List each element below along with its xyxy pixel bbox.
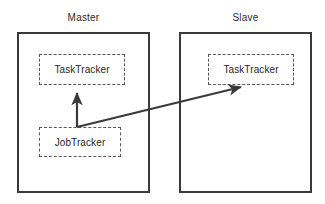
group-title-slave: Slave (179, 12, 312, 23)
daemon-box-slave-tasktracker[interactable]: TaskTracker (208, 54, 294, 85)
daemon-label-slave-tasktracker: TaskTracker (223, 64, 278, 75)
daemon-box-master-tasktracker[interactable]: TaskTracker (39, 54, 125, 85)
daemon-label-master-jobtracker: JobTracker (55, 137, 106, 148)
group-title-master: Master (17, 12, 150, 23)
daemon-box-master-jobtracker[interactable]: JobTracker (39, 127, 121, 157)
diagram-canvas: Master Slave TaskTracker JobTracker Task… (0, 0, 325, 204)
daemon-label-master-tasktracker: TaskTracker (54, 64, 109, 75)
